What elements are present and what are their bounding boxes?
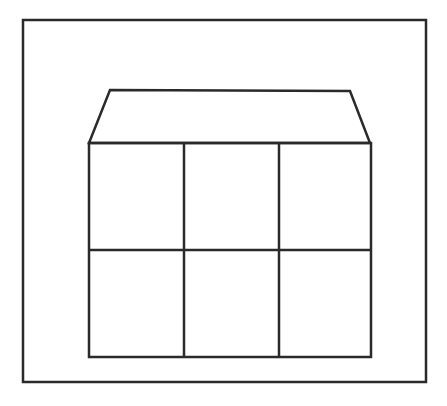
line-drawing [0, 0, 447, 406]
outer-frame [23, 20, 426, 382]
trapezoid-top [89, 90, 370, 143]
grid-dividers [89, 143, 371, 357]
